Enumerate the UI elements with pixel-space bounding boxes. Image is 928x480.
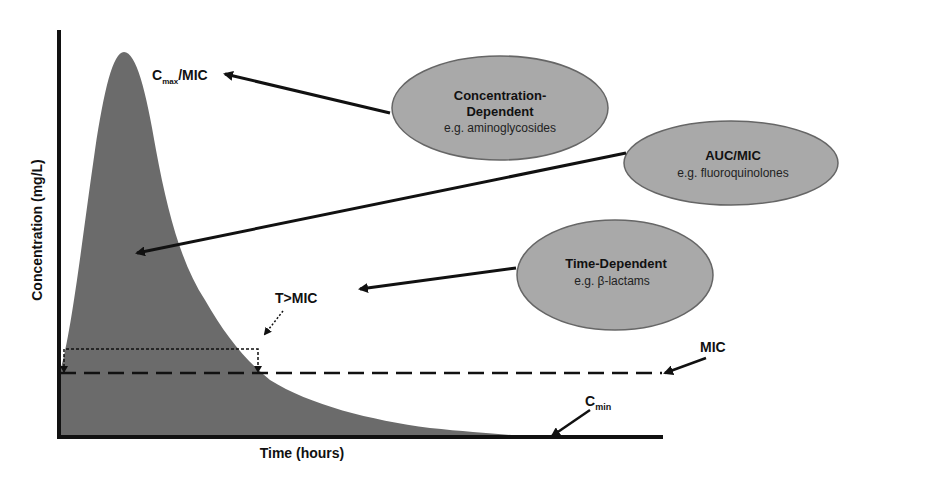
- bubble-title: Time-Dependent: [565, 256, 667, 271]
- bubble-title-line2: Dependent: [466, 104, 534, 119]
- y-axis-label: Concentration (mg/L): [29, 159, 45, 301]
- t-above-mic-pointer: [265, 311, 283, 334]
- time-dependent-bubble: Time-Dependent e.g. β-lactams: [517, 220, 713, 330]
- time-dependent-pointer-arrow: [360, 268, 516, 289]
- x-axis-label: Time (hours): [260, 445, 345, 461]
- auc-mic-bubble: AUC/MIC e.g. fluoroquinolones: [624, 121, 838, 205]
- bubble-title: AUC/MIC: [705, 148, 761, 163]
- bubble-example: e.g. aminoglycosides: [444, 121, 556, 135]
- pk-pd-diagram: Time (hours) Concentration (mg/L) Cmax/M…: [0, 0, 928, 480]
- concentration-dependent-bubble: Concentration- Dependent e.g. aminoglyco…: [392, 56, 608, 160]
- bubble-example: e.g. β-lactams: [574, 274, 650, 288]
- bubble-title: Concentration-: [454, 88, 546, 103]
- cmin-pointer-arrow: [552, 410, 590, 436]
- mic-pointer-arrow: [665, 358, 706, 373]
- bubble-example: e.g. fluoroquinolones: [677, 166, 788, 180]
- cmax-pointer-arrow: [225, 74, 390, 113]
- cmax-mic-label: Cmax/MIC: [152, 67, 208, 86]
- t-above-mic-label: T>MIC: [275, 290, 317, 306]
- cmin-label: Cmin: [585, 393, 611, 412]
- mic-label: MIC: [700, 339, 726, 355]
